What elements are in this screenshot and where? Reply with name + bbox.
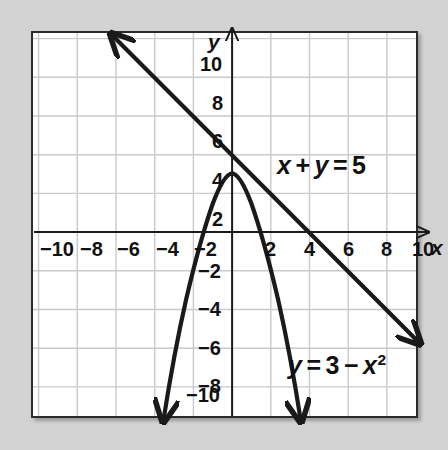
parabola-eq-operator: −	[344, 351, 359, 379]
y-tick-label-2: 2	[212, 208, 223, 231]
parabola-eq-equals: =	[306, 351, 321, 379]
y-tick-label-neg4: −4	[198, 298, 221, 321]
line-eq-equals: =	[333, 151, 348, 179]
x-tick-label-4: 4	[304, 238, 315, 261]
x-tick-label-2: 2	[265, 238, 276, 261]
series-line-x-plus-y-equals-5	[112, 35, 419, 348]
parabola-eq-term-var: x	[363, 351, 377, 379]
line-eq-var-x: x	[277, 151, 291, 179]
line-series-path	[112, 35, 419, 343]
y-tick-label-neg10: −10	[186, 384, 220, 407]
y-axis-name-label: y	[208, 30, 220, 54]
line-eq-operator: +	[295, 151, 310, 179]
graph-figure: −10 −8 −6 −4 −2 2 4 6 8 10 10 8 6 4 2 −2…	[0, 0, 448, 450]
line-eq-rhs: 5	[352, 151, 366, 179]
y-tick-label-4: 4	[212, 169, 223, 192]
y-tick-label-10: 10	[200, 53, 222, 76]
parabola-eq-constant: 3	[326, 351, 340, 379]
x-tick-label-neg2: −2	[194, 238, 217, 261]
line-eq-var-y: y	[315, 151, 329, 179]
x-tick-label-neg4: −4	[156, 238, 179, 261]
y-tick-label-neg6: −6	[198, 337, 221, 360]
parabola-eq-var-y: y	[288, 351, 302, 379]
x-tick-label-neg6: −6	[117, 238, 140, 261]
x-tick-label-8: 8	[381, 238, 392, 261]
y-tick-label-6: 6	[212, 130, 223, 153]
x-tick-label-6: 6	[343, 238, 354, 261]
parabola-eq-exponent: 2	[377, 351, 386, 368]
x-axis-name-label: x	[431, 236, 443, 260]
graph-canvas	[0, 0, 448, 450]
x-tick-label-neg8: −8	[80, 238, 103, 261]
x-tick-label-neg10: −10	[40, 238, 74, 261]
parabola-equation-label: y=3−x2	[288, 351, 387, 380]
y-tick-label-neg2: −2	[198, 260, 221, 283]
y-tick-label-8: 8	[212, 92, 223, 115]
line-equation-label: x+y=5	[277, 151, 366, 180]
